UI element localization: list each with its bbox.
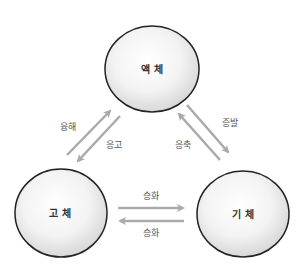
label-sublimation-forward: 승화 bbox=[143, 191, 159, 201]
label-sublimation-reverse: 승화 bbox=[143, 228, 159, 238]
solid-label: 고 체 bbox=[49, 207, 70, 219]
state-liquid: 액 체 bbox=[105, 26, 199, 112]
phase-change-diagram: 액 체 고 체 기 체 융해 응고 증발 응축 승화 승화 bbox=[0, 0, 304, 277]
label-evaporation: 증발 bbox=[222, 118, 238, 128]
gas-label: 기 체 bbox=[232, 208, 253, 220]
label-melting: 융해 bbox=[60, 122, 76, 132]
label-condensation: 응축 bbox=[175, 140, 191, 150]
state-gas: 기 체 bbox=[197, 171, 289, 257]
label-freezing: 응고 bbox=[106, 140, 122, 150]
liquid-label: 액 체 bbox=[141, 63, 162, 75]
state-solid: 고 체 bbox=[15, 169, 107, 257]
